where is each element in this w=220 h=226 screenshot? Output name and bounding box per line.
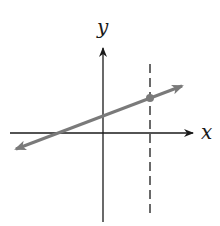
coordinate-plane: x y	[0, 0, 220, 226]
x-axis-label: x	[201, 120, 212, 144]
y-axis-label: y	[96, 15, 109, 39]
intersection-point	[146, 94, 154, 102]
linear-function-line	[16, 86, 182, 149]
